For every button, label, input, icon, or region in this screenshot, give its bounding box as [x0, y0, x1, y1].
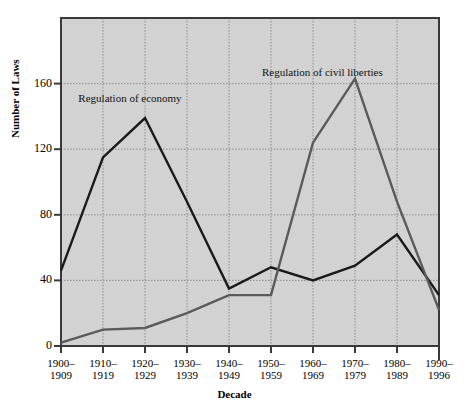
chart-figure: Number of Laws 04080120160 1900–19091910…	[0, 0, 469, 412]
x-tick-label-line1: 1900–	[37, 357, 85, 369]
x-tick-label-line2: 1996	[415, 369, 463, 381]
x-tick-label: 1960–1969	[289, 357, 337, 381]
x-tick-label-line2: 1919	[79, 369, 127, 381]
x-tick-label: 1980–1989	[373, 357, 421, 381]
y-tick-label: 0	[18, 338, 52, 353]
y-tick-label: 120	[18, 141, 52, 156]
x-tick-label-line1: 1980–	[373, 357, 421, 369]
annotation-regulation-of-economy: Regulation of economy	[78, 92, 182, 105]
x-axis-title: Decade	[0, 388, 469, 400]
x-tick-label: 1940–1949	[205, 357, 253, 381]
x-tick-label: 1910–1919	[79, 357, 127, 381]
x-tick-label: 1970–1979	[331, 357, 379, 381]
x-tick-label-line2: 1909	[37, 369, 85, 381]
x-tick-label-line2: 1979	[331, 369, 379, 381]
x-tick-label-line2: 1929	[121, 369, 169, 381]
y-tick-label: 40	[18, 272, 52, 287]
x-tick-label-line1: 1990–	[415, 357, 463, 369]
x-tick-label-line2: 1969	[289, 369, 337, 381]
x-tick-label-line1: 1960–	[289, 357, 337, 369]
x-tick-label-line2: 1949	[205, 369, 253, 381]
x-tick-label-line1: 1910–	[79, 357, 127, 369]
x-tick-label: 1920–1929	[121, 357, 169, 381]
x-tick-label-line2: 1959	[247, 369, 295, 381]
line-chart-plot-area	[0, 0, 469, 412]
x-tick-label: 1930–1939	[163, 357, 211, 381]
x-tick-label: 1950–1959	[247, 357, 295, 381]
y-tick-label: 80	[18, 207, 52, 222]
x-tick-label: 1990–1996	[415, 357, 463, 381]
x-tick-label-line1: 1930–	[163, 357, 211, 369]
x-tick-label-line1: 1920–	[121, 357, 169, 369]
x-tick-label-line1: 1970–	[331, 357, 379, 369]
x-tick-label-line2: 1939	[163, 369, 211, 381]
x-tick-label-line2: 1989	[373, 369, 421, 381]
annotation-economy-line2: economy	[141, 92, 181, 104]
annotation-regulation-of-civil-liberties: Regulation of civil liberties	[262, 66, 372, 79]
x-tick-label-line1: 1940–	[205, 357, 253, 369]
annotation-civil-line2: civil liberties	[325, 66, 383, 78]
annotation-civil-line1: Regulation of	[262, 66, 322, 78]
y-tick-label: 160	[18, 76, 52, 91]
x-tick-label: 1900–1909	[37, 357, 85, 381]
annotation-economy-line1: Regulation of	[78, 92, 138, 104]
x-tick-label-line1: 1950–	[247, 357, 295, 369]
